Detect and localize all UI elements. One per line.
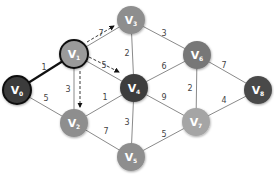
node-v1[interactable]: V1 — [60, 40, 88, 68]
node-subscript: 2 — [76, 123, 80, 130]
node-v3[interactable]: V3 — [117, 6, 145, 34]
node-subscript: 5 — [133, 157, 137, 164]
node-subscript: 4 — [136, 88, 140, 95]
edge-weight-label: 5 — [161, 130, 166, 139]
graph-diagram: 1575317236935274 V0V1V2V3V4V5V6V7V8 — [0, 0, 274, 175]
edge-weight-label: 7 — [103, 127, 108, 136]
node-subscript: 3 — [133, 20, 137, 27]
node-v8[interactable]: V8 — [244, 76, 272, 104]
edge-weight-label: 2 — [124, 49, 129, 58]
nodes-layer: V0V1V2V3V4V5V6V7V8 — [3, 6, 272, 171]
node-subscript: 1 — [76, 54, 80, 61]
edge-weight-label: 5 — [101, 61, 106, 70]
edge-weight-label: 2 — [187, 84, 192, 93]
edge-weight-label: 6 — [161, 62, 166, 71]
node-v0[interactable]: V0 — [3, 76, 31, 104]
node-subscript: 7 — [198, 122, 202, 129]
node-v7[interactable]: V7 — [182, 108, 210, 136]
node-subscript: 0 — [19, 90, 23, 97]
node-v6[interactable]: V6 — [183, 41, 211, 69]
node-subscript: 6 — [199, 55, 203, 62]
edge-weight-label: 3 — [124, 118, 129, 127]
dashed-arrows-layer — [80, 26, 119, 107]
node-v4[interactable]: V4 — [120, 74, 148, 102]
node-v2[interactable]: V2 — [60, 109, 88, 137]
edge-weight-label: 7 — [221, 61, 226, 70]
edge-weight-label: 3 — [65, 85, 70, 94]
edge-weight-label: 1 — [102, 93, 107, 102]
edge-weight-label: 9 — [161, 93, 166, 102]
edge-weight-label: 7 — [98, 29, 103, 38]
edge-weight-label: 5 — [43, 94, 48, 103]
node-subscript: 8 — [260, 90, 264, 97]
edge-weight-label: 1 — [41, 63, 46, 72]
edge-weight-label: 3 — [161, 29, 166, 38]
edge-weight-label: 4 — [221, 96, 226, 105]
node-v5[interactable]: V5 — [117, 143, 145, 171]
